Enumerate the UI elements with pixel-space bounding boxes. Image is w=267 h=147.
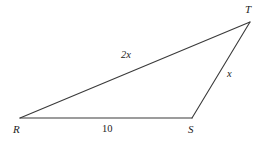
triangle-figure: R S T 2x x 10 <box>0 0 267 147</box>
vertex-label-r: R <box>13 124 20 135</box>
vertex-label-t: T <box>245 4 251 15</box>
side-length-label-rt: 2x <box>121 50 131 61</box>
side-length-label-rs: 10 <box>102 124 113 135</box>
vertex-label-s: S <box>188 124 194 135</box>
side-st-line <box>192 22 250 118</box>
side-rt-line <box>20 22 250 118</box>
side-length-label-st: x <box>227 69 232 80</box>
